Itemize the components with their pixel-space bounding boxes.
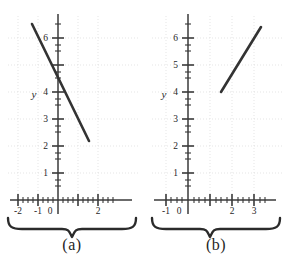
plot-b: -1 0 2 3 1 2 3 4 5 6 y <box>144 0 288 218</box>
y-tick-label: 4 <box>173 87 178 97</box>
y-tick-label: 2 <box>43 141 48 151</box>
data-line-b <box>221 27 261 92</box>
panel-b: -1 0 2 3 1 2 3 4 5 6 y (b) <box>144 0 288 266</box>
data-line-a <box>32 24 89 141</box>
y-tick-label: 3 <box>173 114 178 124</box>
y-tick-label: 6 <box>43 33 48 43</box>
plot-a: -2 -1 0 2 1 2 3 4 6 y <box>0 0 144 218</box>
panel-caption-a: (a) <box>0 236 144 254</box>
y-tick-label: 1 <box>43 168 48 178</box>
y-tick-label: 1 <box>173 168 178 178</box>
grid-b <box>152 16 282 205</box>
y-tick-label: 5 <box>173 60 178 70</box>
two-panel-line-graph-figure: -2 -1 0 2 1 2 3 4 6 y (a) <box>0 0 288 266</box>
y-tick-label: 3 <box>43 114 48 124</box>
axes-a <box>10 14 132 214</box>
y-axis-name: y <box>31 88 37 100</box>
y-tick-label: 2 <box>173 141 178 151</box>
y-axis-name: y <box>161 88 167 100</box>
y-tick-label: 6 <box>173 33 178 43</box>
panel-a: -2 -1 0 2 1 2 3 4 6 y (a) <box>0 0 144 266</box>
panel-caption-b: (b) <box>144 236 288 254</box>
y-tick-label: 4 <box>43 87 48 97</box>
